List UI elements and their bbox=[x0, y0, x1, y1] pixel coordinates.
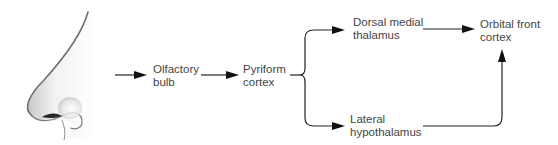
nose-icon bbox=[28, 12, 96, 140]
node-olfactory-bulb: Olfactory bulb bbox=[153, 63, 199, 89]
node-dorsal-medial-thalamus: Dorsal medial thalamus bbox=[353, 16, 423, 42]
arrow-pyriform-split bbox=[290, 26, 345, 130]
node-pyriform-cortex: Pyriform cortex bbox=[243, 63, 286, 89]
arrow-olfactory-bulb-to-pyriform bbox=[201, 71, 239, 79]
node-orbital-front-cortex: Orbital front cortex bbox=[480, 18, 540, 44]
node-lateral-hypothalamus: Lateral hypothalamus bbox=[350, 113, 422, 139]
arrow-dmt-to-ofc bbox=[423, 25, 475, 33]
arrow-lh-to-ofc bbox=[423, 49, 506, 126]
arrow-nose-to-olfactory-bulb bbox=[115, 71, 147, 79]
